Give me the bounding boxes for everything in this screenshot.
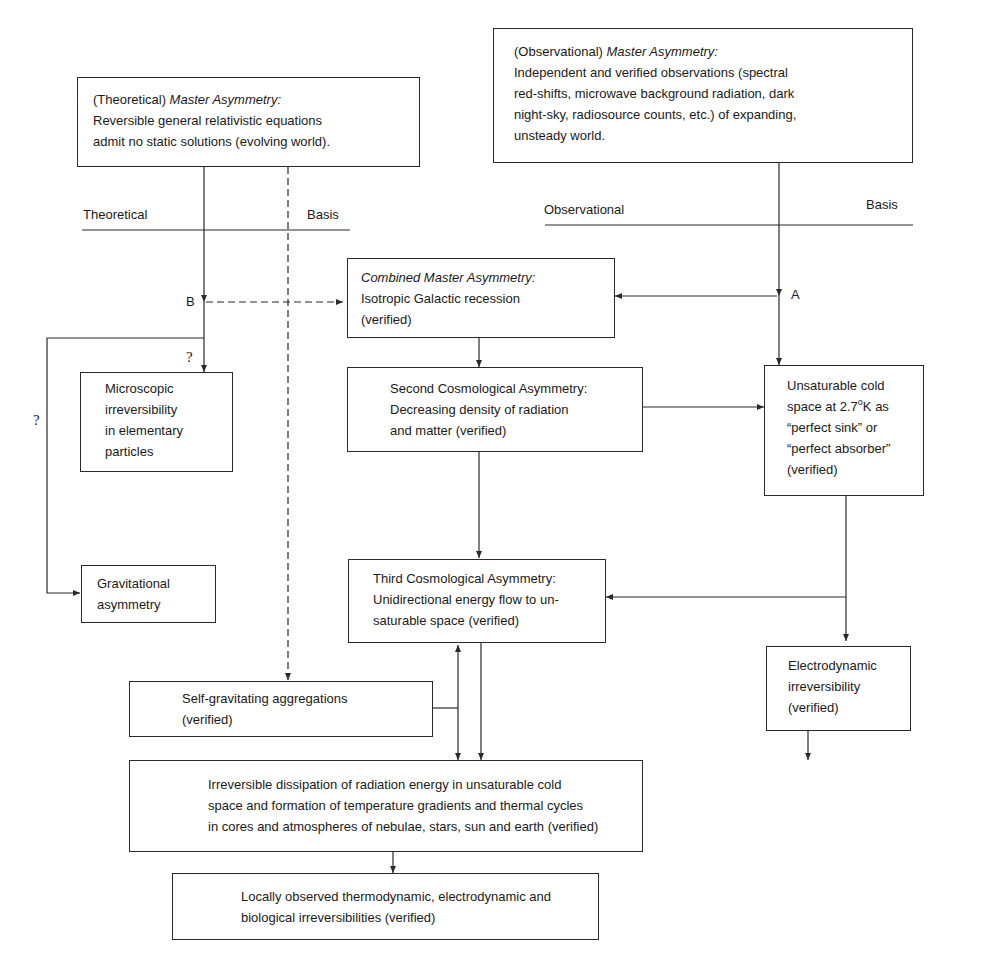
observational-title: Master Asymmetry: [606, 44, 717, 59]
self-gravitating-aggregations-box: Self-gravitating aggregations (verified) [129, 681, 433, 737]
electrodynamic-line-1: Electrodynamic [788, 655, 877, 676]
dissipation-line-2: space and formation of temperature gradi… [208, 795, 598, 816]
node-label-b: B [186, 294, 195, 309]
observational-prefix: (Observational) [514, 44, 606, 59]
unsaturable-cold-space-box: Unsaturable cold space at 2.7oK as “perf… [764, 365, 924, 496]
gravitational-asymmetry-box: Gravitational asymmetry [81, 565, 216, 623]
theoretical-basis-label: Theoretical [83, 207, 147, 222]
second-cosmological-asymmetry-box: Second Cosmological Asymmetry: Decreasin… [347, 367, 643, 452]
observational-master-asymmetry-box: (Observational) Master Asymmetry: Indepe… [493, 28, 913, 163]
locally-observed-irreversibilities-box: Locally observed thermodynamic, electrod… [172, 873, 599, 940]
gravitational-line-2: asymmetry [97, 594, 170, 615]
electrodynamic-irreversibility-box: Electrodynamic irreversibility (verified… [766, 646, 911, 731]
electrodynamic-line-2: irreversibility [788, 676, 877, 697]
microscopic-line-2: irreversibility [105, 399, 183, 420]
cold-space-line-2-pre: space at 2.7 [787, 399, 858, 414]
combined-line-1: Isotropic Galactic recession [361, 288, 535, 309]
microscopic-line-1: Microscopic [105, 378, 183, 399]
microscopic-irreversibility-box: Microscopic irreversibility in elementar… [80, 372, 233, 472]
cold-space-line-1: Unsaturable cold [787, 375, 890, 396]
electrodynamic-line-3: (verified) [788, 697, 877, 718]
microscopic-line-4: particles [105, 441, 183, 462]
observational-line-1: Independent and verified observations (s… [514, 62, 796, 83]
microscopic-line-3: in elementary [105, 420, 183, 441]
cold-space-line-3: “perfect sink” or [787, 417, 890, 438]
irreversible-dissipation-box: Irreversible dissipation of radiation en… [129, 760, 643, 852]
node-label-a: A [791, 287, 800, 302]
observational-basis-label: Observational [544, 202, 624, 217]
theoretical-basis-right-label: Basis [307, 207, 339, 222]
combined-title: Combined Master Asymmetry: [361, 267, 535, 288]
combined-master-asymmetry-box: Combined Master Asymmetry: Isotropic Gal… [347, 258, 615, 338]
cold-space-line-2-post: K as [863, 399, 889, 414]
self-gravitating-line-1: Self-gravitating aggregations [182, 688, 348, 709]
cold-space-line-5: (verified) [787, 459, 890, 480]
third-line-3: saturable space (verified) [373, 610, 559, 631]
theoretical-prefix: (Theoretical) [93, 92, 170, 107]
observational-basis-right-label: Basis [866, 197, 898, 212]
second-line-1: Second Cosmological Asymmetry: [390, 378, 587, 399]
second-line-2: Decreasing density of radiation [390, 399, 587, 420]
theoretical-master-asymmetry-box: (Theoretical) Master Asymmetry: Reversib… [77, 77, 420, 167]
theoretical-line-1: Reversible general relativistic equation… [93, 110, 330, 131]
self-gravitating-line-2: (verified) [182, 709, 348, 730]
observational-line-3: night-sky, radiosource counts, etc.) of … [514, 104, 796, 125]
observational-line-4: unsteady world. [514, 125, 796, 146]
dissipation-line-1: Irreversible dissipation of radiation en… [208, 774, 598, 795]
theoretical-title: Master Asymmetry: [170, 92, 281, 107]
gravitational-line-1: Gravitational [97, 573, 170, 594]
dissipation-line-3: in cores and atmospheres of nebulae, sta… [208, 816, 598, 837]
uncertain-mark-gravitational: ? [33, 412, 40, 429]
local-line-1: Locally observed thermodynamic, electrod… [241, 886, 551, 907]
combined-line-2: (verified) [361, 309, 535, 330]
theoretical-line-2: admit no static solutions (evolving worl… [93, 131, 330, 152]
second-line-3: and matter (verified) [390, 420, 587, 441]
uncertain-mark-microscopic: ? [186, 349, 193, 366]
observational-line-2: red-shifts, microwave background radiati… [514, 83, 796, 104]
local-line-2: biological irreversibilities (verified) [241, 907, 551, 928]
third-line-1: Third Cosmological Asymmetry: [373, 568, 559, 589]
cosmological-asymmetry-flow-diagram: (Theoretical) Master Asymmetry: Reversib… [0, 0, 986, 969]
cold-space-line-4: “perfect absorber” [787, 438, 890, 459]
third-line-2: Unidirectional energy flow to un- [373, 589, 559, 610]
third-cosmological-asymmetry-box: Third Cosmological Asymmetry: Unidirecti… [348, 559, 606, 643]
